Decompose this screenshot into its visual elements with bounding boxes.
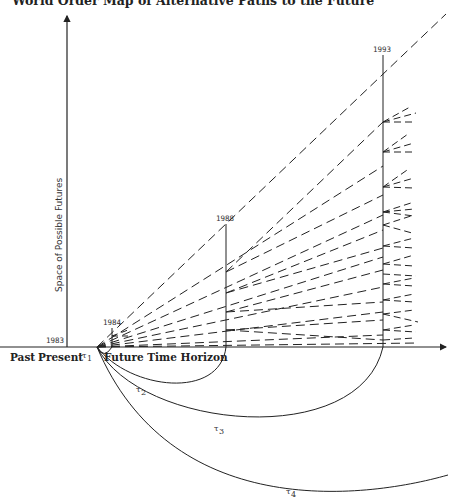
label-past: Past — [10, 351, 35, 363]
label-present: Present — [38, 351, 83, 363]
svg-text:4: 4 — [291, 490, 296, 499]
horizon-arcs — [97, 347, 448, 491]
rays-1993 — [383, 107, 418, 340]
tau-1-label: τ1 — [82, 351, 92, 363]
arc-tau-4 — [97, 347, 448, 491]
rays-1988 — [226, 122, 383, 340]
label-future-time-horizon: Future Time Horizon — [104, 351, 228, 363]
origin-rays — [97, 14, 446, 347]
tau-2-label: τ2 — [136, 385, 146, 397]
futures-diagram: 1983 1984 1988 1993 Past Present Future … — [0, 0, 450, 501]
svg-text:1: 1 — [87, 354, 92, 363]
year-1984: 1984 — [103, 318, 122, 327]
svg-text:3: 3 — [219, 427, 224, 436]
year-1983: 1983 — [46, 336, 64, 345]
tau-3-label: τ3 — [214, 424, 224, 436]
label-space-of-possible-futures: Space of Possible Futures — [54, 177, 64, 292]
year-1988: 1988 — [216, 214, 235, 223]
year-1993: 1993 — [373, 45, 391, 54]
svg-text:2: 2 — [141, 388, 146, 397]
